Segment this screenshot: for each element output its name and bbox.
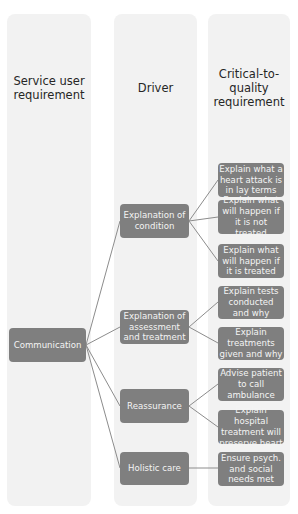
link-assessment-req4: [189, 302, 218, 327]
link-reassurance-req7: [189, 406, 218, 427]
link-communication-assessment: [86, 327, 120, 345]
node-reassurance: Reassurance: [120, 389, 189, 423]
link-communication-reassurance: [86, 345, 120, 406]
header-critical-to-quality: Critical-to- quality requirement: [208, 67, 290, 109]
node-req-tests: Explain tests conducted and why: [218, 286, 284, 319]
link-assessment-req5: [189, 327, 218, 343]
node-req-psych-social: Ensure psych. and social needs met: [218, 452, 284, 486]
header-driver: Driver: [114, 81, 197, 95]
link-communication-holistic: [86, 345, 120, 468]
header-line: Driver: [114, 81, 197, 95]
link-reassurance-req6: [189, 384, 218, 406]
node-explanation-of-condition: Explanation of condition: [120, 204, 189, 238]
node-req-preserve-heart: Explain hospital treatment will preserve…: [218, 410, 284, 444]
node-req-treated: Explain what will happen if it is treate…: [218, 244, 284, 278]
header-line: Critical-to-: [208, 67, 290, 81]
link-communication-condition: [86, 221, 120, 345]
header-line: Service user: [7, 74, 91, 88]
header-line: quality: [208, 81, 290, 95]
header-line: requirement: [208, 95, 290, 109]
node-req-ambulance: Advise patient to call ambulance: [218, 368, 284, 401]
header-service-user-requirement: Service user requirement: [7, 74, 91, 102]
node-communication: Communication: [9, 328, 86, 362]
node-req-heart-attack-lay-terms: Explain what a heart attack is in lay te…: [218, 163, 284, 197]
node-req-treatments: Explain treatments given and why: [218, 327, 284, 360]
link-condition-req1: [189, 180, 218, 221]
node-req-not-treated: Explain what will happen if it is not tr…: [218, 200, 284, 234]
link-condition-req3: [189, 221, 218, 261]
node-holistic-care: Holistic care: [120, 452, 189, 485]
link-condition-req2: [189, 217, 218, 221]
node-explanation-of-assessment: Explanation of assessment and treatment: [120, 310, 189, 344]
header-line: requirement: [7, 88, 91, 102]
